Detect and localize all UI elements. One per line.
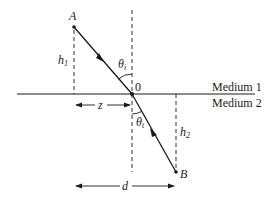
medium-2-label: Medium 2 xyxy=(212,96,262,110)
point-a-dot xyxy=(72,25,76,29)
h1-label: h1 xyxy=(58,53,68,68)
theta-t-label: θt xyxy=(136,115,145,130)
origin-label: 0 xyxy=(135,80,141,94)
point-b-dot xyxy=(174,170,178,174)
origin-dot xyxy=(130,92,134,96)
point-b-label: B xyxy=(180,167,188,181)
point-a-label: A xyxy=(68,9,77,23)
transmitted-angle-arc xyxy=(132,112,142,115)
theta-i-label: θi xyxy=(118,57,126,72)
z-label: z xyxy=(97,98,103,112)
d-label: d xyxy=(122,179,129,193)
medium-1-label: Medium 1 xyxy=(212,80,262,94)
refraction-diagram: A B 0 θi θt h1 h2 z d Medium 1 Medium 2 xyxy=(0,0,279,199)
h2-label: h2 xyxy=(180,125,190,140)
incident-angle-arc xyxy=(119,74,133,79)
